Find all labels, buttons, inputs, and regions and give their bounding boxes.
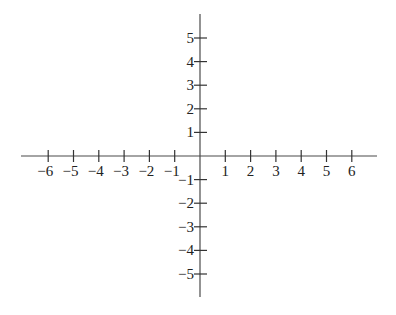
y-tick-label: −3 <box>178 219 194 235</box>
x-tick-label: −4 <box>88 163 104 179</box>
x-tick-label: 6 <box>348 163 356 179</box>
x-tick-label: 3 <box>272 163 280 179</box>
x-tick-label: −3 <box>113 163 129 179</box>
x-tick-label: 2 <box>247 163 255 179</box>
x-tick-label: −6 <box>37 163 53 179</box>
x-tick-label: −2 <box>138 163 154 179</box>
y-tick-label: −5 <box>178 266 194 282</box>
x-tick-label: 4 <box>297 163 305 179</box>
x-axis-ticks: −6−5−4−3−2−1123456 <box>37 150 356 179</box>
y-tick-label: −4 <box>178 242 194 258</box>
y-tick-label: −1 <box>178 172 194 188</box>
y-tick-label: 1 <box>187 124 195 140</box>
x-tick-label: −5 <box>63 163 79 179</box>
y-tick-label: 5 <box>187 30 195 46</box>
y-tick-label: 4 <box>187 54 195 70</box>
y-tick-label: −2 <box>178 195 194 211</box>
coordinate-plane: −6−5−4−3−2−1123456 54321−1−2−3−4−5 <box>0 0 396 315</box>
y-tick-label: 2 <box>187 101 195 117</box>
y-tick-label: 3 <box>187 77 195 93</box>
x-tick-label: 1 <box>222 163 230 179</box>
x-tick-label: 5 <box>323 163 331 179</box>
